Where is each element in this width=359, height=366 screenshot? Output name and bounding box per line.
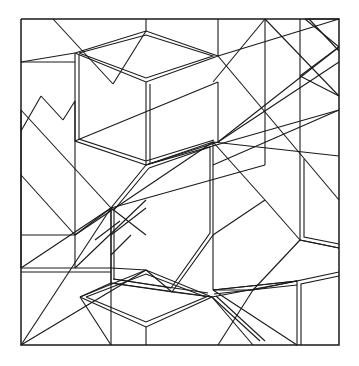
figure-canvas (0, 0, 359, 366)
line-drawing-figure: Geometric Line Drawing Abstract embedded… (0, 0, 359, 366)
canvas-background (0, 0, 359, 366)
